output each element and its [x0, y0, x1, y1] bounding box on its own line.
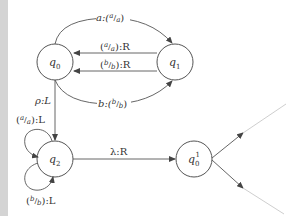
svg-text:(b/b):L: (b/b):L — [26, 195, 56, 207]
svg-text:(a/a):L: (a/a):L — [16, 114, 45, 126]
transition-q2-q0prime-lambda: λ:R — [73, 146, 175, 159]
state-q2: q2 — [37, 141, 73, 177]
svg-text:(b/b):R: (b/b):R — [100, 59, 131, 71]
state-q0-prime: q01 — [176, 141, 212, 177]
state-diagram: q0 q1 q2 q01 a:(a/a) (a/a):R (b/b):R b:(… — [0, 0, 287, 216]
transition-q1-q0-aR: (a/a):R — [74, 41, 157, 53]
transition-q1-q0-bR: (b/b):R — [74, 59, 157, 71]
state-q2-name: q — [49, 153, 56, 166]
svg-text:λ:R: λ:R — [110, 146, 128, 157]
svg-text:q01: q01 — [188, 151, 200, 168]
state-q0: q0 — [37, 44, 73, 80]
state-q0-name: q — [49, 56, 56, 69]
state-q0p-name: q — [188, 153, 195, 166]
outgoing-edge-lower — [212, 160, 284, 214]
transition-q0-q1-b: b:(b/b) — [55, 80, 172, 111]
svg-text:ρ:L: ρ:L — [34, 95, 51, 106]
svg-text:(a/a):R: (a/a):R — [100, 41, 130, 53]
state-q1-name: q — [169, 56, 176, 69]
transition-q0-q1-a: a:(a/a) — [55, 12, 172, 44]
outgoing-edge-upper — [212, 104, 286, 158]
state-q1: q1 — [157, 44, 193, 80]
